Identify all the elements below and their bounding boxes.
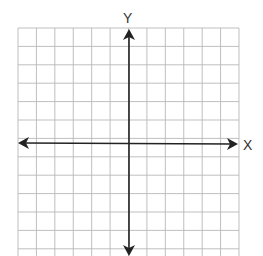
x-axis-label: X: [243, 137, 253, 153]
y-axis-label: Y: [123, 10, 133, 26]
coordinate-plane: Y X: [0, 0, 263, 256]
x-axis: [24, 143, 232, 144]
